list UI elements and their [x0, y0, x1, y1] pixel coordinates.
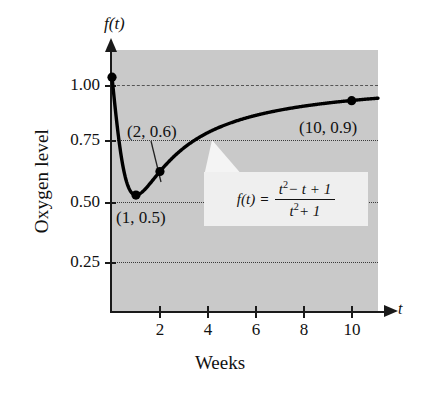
formula-callout-tail: [204, 140, 243, 176]
formula-expression: f(t) = t2− t + 1 t2+ 1: [237, 179, 335, 220]
data-point-marker: [107, 73, 116, 82]
formula-callout-box: f(t) = t2− t + 1 t2+ 1: [204, 172, 368, 226]
formula-equals-sign: =: [260, 191, 269, 208]
formula-fraction: t2− t + 1 t2+ 1: [275, 179, 335, 220]
data-point-marker: [155, 167, 164, 176]
annotation-2-0.6: (2, 0.6): [127, 122, 177, 142]
annotation-10-0.9: (10, 0.9): [299, 118, 357, 138]
denominator-rest: + 1: [299, 203, 320, 219]
annotation-1-0.5: (1, 0.5): [116, 208, 166, 228]
oxygen-level-chart: f(t) t 1.00 0.75 0.50 0.25 2 4 6 8 10 Ox…: [0, 0, 421, 393]
formula-numerator: t2− t + 1: [275, 179, 335, 200]
formula-denominator: t2+ 1: [286, 200, 325, 220]
data-point-marker: [131, 190, 140, 199]
data-point-marker: [347, 96, 356, 105]
formula-lhs: f(t): [237, 191, 255, 208]
numerator-rest: − t + 1: [288, 181, 331, 197]
